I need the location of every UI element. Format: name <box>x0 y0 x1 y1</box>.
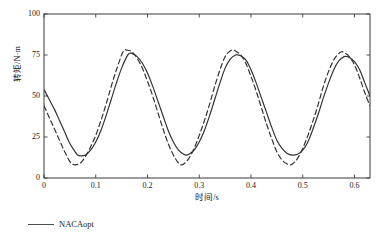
legend-line-icon <box>28 224 54 225</box>
x-tick-label: 0.2 <box>132 181 162 190</box>
series-layer <box>44 50 370 165</box>
chart-legend: NACAopt <box>28 219 94 229</box>
y-tick-label: 50 <box>10 91 40 100</box>
legend-label-nacaopt: NACAopt <box>59 219 94 229</box>
x-tick-label: 0.1 <box>81 181 111 190</box>
x-axis-title: 时间/s <box>44 190 370 202</box>
torque-time-chart: 转矩/N·m 时间/s 0255075100 00.10.20.30.40.50… <box>0 0 384 237</box>
y-tick-label: 75 <box>10 50 40 59</box>
figure-root: 转矩/N·m 时间/s 0255075100 00.10.20.30.40.50… <box>0 0 384 237</box>
x-tick-label: 0.6 <box>339 181 369 190</box>
x-tick-label: 0.4 <box>236 181 266 190</box>
y-tick-label: 100 <box>10 9 40 18</box>
series-line-1 <box>44 53 370 156</box>
x-tick-label: 0.3 <box>184 181 214 190</box>
x-tick-label: 0.5 <box>288 181 318 190</box>
y-tick-label: 25 <box>10 132 40 141</box>
x-tick-label: 0 <box>29 181 59 190</box>
